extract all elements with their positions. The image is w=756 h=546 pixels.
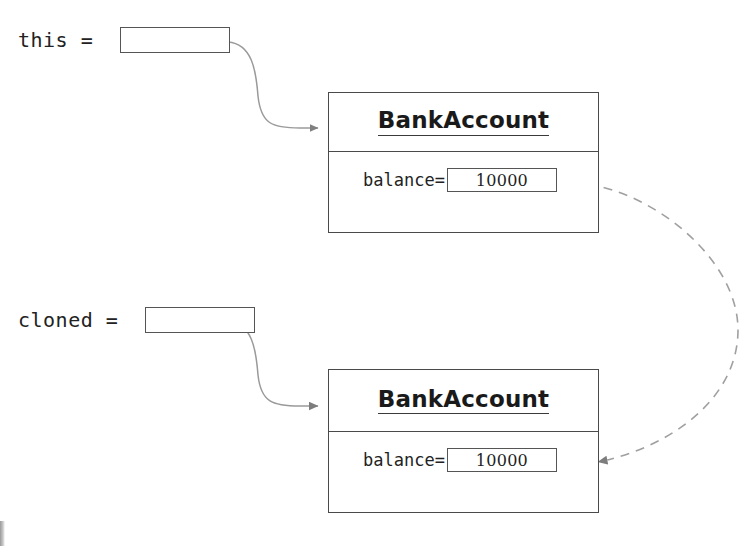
- clone-balance-value-box[interactable]: 10000: [447, 448, 557, 472]
- original-balance-value-box[interactable]: 10000: [447, 168, 557, 192]
- field-label-balance: balance=: [363, 170, 445, 190]
- object-title-cell: BankAccount: [329, 93, 598, 152]
- this-variable-row: this =: [18, 27, 230, 53]
- object-fields-cell: balance= 10000: [329, 432, 598, 512]
- this-variable-slot[interactable]: [120, 27, 230, 53]
- field-row-balance: balance= 10000: [329, 448, 598, 472]
- object-class-name: BankAccount: [378, 387, 550, 414]
- connector-copy-balance-value: [588, 184, 738, 462]
- field-label-balance: balance=: [363, 450, 445, 470]
- field-row-balance: balance= 10000: [329, 168, 598, 192]
- clone-balance-value: 10000: [476, 451, 528, 470]
- connector-cloned-to-clone: [228, 321, 318, 406]
- bank-account-clone-box[interactable]: BankAccount balance= 10000: [328, 369, 599, 513]
- connector-this-to-original: [228, 42, 318, 128]
- scan-edge-artifact: [0, 521, 5, 546]
- cloned-variable-label: cloned =: [18, 308, 131, 332]
- bank-account-original-box[interactable]: BankAccount balance= 10000: [328, 92, 599, 233]
- cloned-variable-slot[interactable]: [145, 307, 255, 333]
- cloned-variable-row: cloned =: [18, 307, 255, 333]
- original-balance-value: 10000: [476, 171, 528, 190]
- this-variable-label: this =: [18, 28, 106, 52]
- object-fields-cell: balance= 10000: [329, 152, 598, 232]
- object-diagram: this = cloned = BankAccount balance= 100…: [0, 0, 756, 546]
- object-class-name: BankAccount: [378, 108, 550, 135]
- object-title-cell: BankAccount: [329, 370, 598, 432]
